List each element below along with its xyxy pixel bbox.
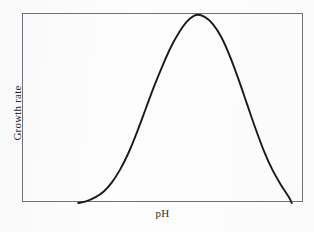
curve-path	[78, 15, 292, 203]
figure-container: Growth rate pH	[0, 0, 314, 232]
growth-rate-curve	[22, 13, 303, 203]
y-axis-label: Growth rate	[9, 19, 25, 208]
x-axis-label: pH	[22, 206, 303, 220]
